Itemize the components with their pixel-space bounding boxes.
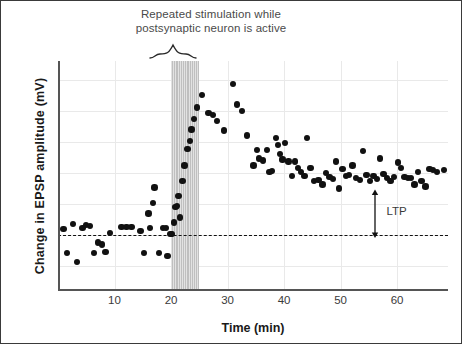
ltp-arrow-icon: [367, 188, 383, 240]
x-tick-label: 40: [269, 294, 299, 306]
plot-area: LTP 102030405060: [58, 61, 448, 289]
data-point: [187, 138, 193, 144]
ltp-annotation-label: LTP: [387, 205, 407, 217]
data-point: [184, 146, 190, 152]
gridline-horizontal: [58, 173, 448, 174]
data-point: [422, 183, 428, 189]
data-point: [330, 176, 336, 182]
data-point: [339, 166, 345, 172]
data-point: [128, 224, 134, 230]
data-point: [91, 250, 97, 256]
data-point: [349, 162, 355, 168]
data-point: [254, 147, 260, 153]
data-point: [70, 221, 76, 227]
data-point: [199, 92, 205, 98]
y-axis-line: [58, 61, 60, 289]
gridline-vertical: [397, 61, 398, 289]
data-point: [319, 181, 325, 187]
x-tick-label: 20: [156, 294, 186, 306]
x-tick-label: 10: [100, 294, 130, 306]
data-point: [411, 181, 417, 187]
gridline-vertical: [228, 61, 229, 289]
data-point: [250, 162, 256, 168]
stimulation-band: [171, 61, 199, 289]
data-point: [264, 147, 270, 153]
data-point: [307, 165, 313, 171]
data-point: [175, 193, 181, 199]
y-axis-label: Change in EPSP amplitude (mV): [33, 51, 47, 301]
data-point: [260, 157, 266, 163]
x-axis-line: [58, 289, 448, 291]
data-point: [177, 214, 183, 220]
data-point: [434, 169, 440, 175]
gridline-horizontal: [58, 266, 448, 267]
data-point: [99, 241, 105, 247]
data-point: [221, 127, 227, 133]
data-point: [214, 118, 220, 124]
data-point: [194, 104, 200, 110]
data-point: [87, 223, 93, 229]
data-point: [301, 173, 307, 179]
data-point: [360, 148, 366, 154]
data-point: [377, 155, 383, 161]
gridline-vertical: [284, 61, 285, 289]
gridline-horizontal: [58, 142, 448, 143]
data-point: [333, 158, 339, 164]
data-point: [289, 173, 295, 179]
data-point: [304, 135, 310, 141]
x-axis-label: Time (min): [58, 321, 448, 335]
chart-title: Repeated stimulation while postsynaptic …: [71, 7, 351, 35]
data-point: [150, 200, 156, 206]
data-point: [102, 249, 108, 255]
gridline-vertical: [115, 61, 116, 289]
data-point: [164, 253, 170, 259]
data-point: [141, 250, 147, 256]
chart-title-line-1: Repeated stimulation while: [71, 7, 351, 21]
data-point: [239, 108, 245, 114]
data-point: [137, 228, 143, 234]
data-point: [181, 162, 187, 168]
x-tick-label: 50: [326, 294, 356, 306]
data-point: [273, 135, 279, 141]
data-point: [391, 174, 397, 180]
data-point: [74, 259, 80, 265]
data-point: [179, 178, 185, 184]
data-point: [357, 177, 363, 183]
x-tick-label: 30: [213, 294, 243, 306]
data-point: [210, 112, 216, 118]
data-point: [188, 126, 194, 132]
data-point: [60, 226, 66, 232]
data-point: [282, 140, 288, 146]
data-point: [230, 81, 236, 87]
data-point: [244, 132, 250, 138]
chart-title-line-2: postsynaptic neuron is active: [71, 21, 351, 35]
data-point: [415, 169, 421, 175]
data-point: [147, 225, 153, 231]
data-point: [171, 219, 177, 225]
data-point: [156, 250, 162, 256]
baseline-dashed-line: [58, 235, 448, 236]
gridline-vertical: [341, 61, 342, 289]
data-point: [374, 176, 380, 182]
data-point: [64, 250, 70, 256]
data-point: [145, 210, 151, 216]
data-point: [234, 101, 240, 107]
data-point: [151, 184, 157, 190]
gridline-horizontal: [58, 80, 448, 81]
data-point: [275, 142, 281, 148]
data-point: [285, 158, 291, 164]
data-point: [398, 165, 404, 171]
data-point: [292, 158, 298, 164]
data-point: [163, 225, 169, 231]
x-tick-label: 60: [382, 294, 412, 306]
data-point: [346, 172, 352, 178]
ltp-experiment-figure: Repeated stimulation while postsynaptic …: [0, 0, 462, 344]
gridline-horizontal: [58, 111, 448, 112]
data-point: [336, 185, 342, 191]
stimulation-brace-icon: [149, 43, 197, 59]
